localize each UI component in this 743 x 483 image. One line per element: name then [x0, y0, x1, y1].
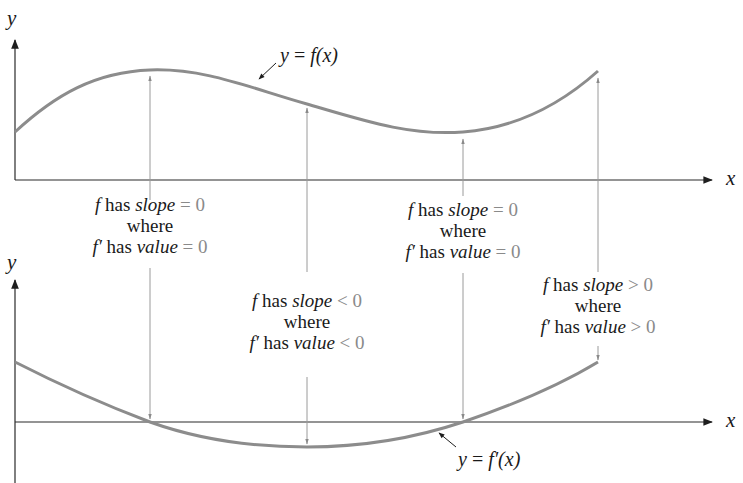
annotation-decreasing: f has slope < 0 where f′ has value < 0: [227, 290, 387, 353]
f-curve-label-eq: =: [289, 44, 310, 66]
top-x-axis-label: x: [726, 166, 735, 191]
annotation-line-value: f′ has value = 0: [383, 241, 543, 262]
annotation-where: where: [518, 295, 678, 316]
f-curve-label: y = f(x): [280, 44, 338, 67]
slope-relation: = 0: [488, 199, 518, 220]
value-relation: < 0: [335, 332, 365, 353]
value-relation: = 0: [491, 241, 521, 262]
annotation-line-slope: f has slope > 0: [518, 274, 678, 295]
f-label-pointer-icon: [259, 63, 276, 79]
annotation-line-value: f′ has value > 0: [518, 316, 678, 337]
f-prime-symbol: f′: [249, 332, 258, 353]
has-text: has: [548, 274, 583, 295]
value-relation: = 0: [178, 236, 208, 257]
bottom-x-axis-label: x: [726, 408, 735, 433]
slope-text: slope: [292, 290, 332, 311]
annotation-line-slope: f has slope = 0: [383, 199, 543, 220]
slope-text: slope: [583, 274, 623, 295]
f-prime-curve-label-lhs: y: [458, 448, 467, 470]
annotation-line-value: f′ has value < 0: [227, 332, 387, 353]
f-prime-symbol: f′: [540, 316, 549, 337]
value-text: value: [294, 332, 335, 353]
has-text: has: [259, 332, 294, 353]
slope-relation: > 0: [623, 274, 653, 295]
slope-relation: = 0: [175, 194, 205, 215]
has-text: has: [413, 199, 448, 220]
f-curve-label-rhs: f(x): [310, 44, 338, 66]
slope-relation: < 0: [332, 290, 362, 311]
annotation-local-max: f has slope = 0 where f′ has value = 0: [70, 194, 230, 257]
f-prime-label-pointer-icon: [439, 433, 456, 447]
annotation-line-value: f′ has value = 0: [70, 236, 230, 257]
annotation-line-slope: f has slope < 0: [227, 290, 387, 311]
f-prime-curve-label: y = f′(x): [458, 448, 520, 471]
f-curve-label-lhs: y: [280, 44, 289, 66]
annotation-increasing: f has slope > 0 where f′ has value > 0: [518, 274, 678, 337]
annotation-line-slope: f has slope = 0: [70, 194, 230, 215]
annotation-local-min: f has slope = 0 where f′ has value = 0: [383, 199, 543, 262]
has-text: has: [102, 236, 137, 257]
top-y-axis-label: y: [7, 6, 16, 31]
slope-text: slope: [448, 199, 488, 220]
annotation-where: where: [227, 311, 387, 332]
f-prime-symbol: f′: [92, 236, 101, 257]
bottom-y-axis-label: y: [7, 250, 16, 275]
value-text: value: [137, 236, 178, 257]
top-graph-axes: [15, 40, 712, 180]
f-prime-curve-label-eq: =: [467, 448, 488, 470]
f-prime-symbol: f′: [405, 241, 414, 262]
f-prime-curve-label-rhs: f′(x): [488, 448, 520, 470]
value-text: value: [450, 241, 491, 262]
has-text: has: [257, 290, 292, 311]
annotation-where: where: [70, 215, 230, 236]
annotation-where: where: [383, 220, 543, 241]
has-text: has: [100, 194, 135, 215]
slope-text: slope: [135, 194, 175, 215]
has-text: has: [550, 316, 585, 337]
value-text: value: [585, 316, 626, 337]
value-relation: > 0: [626, 316, 656, 337]
has-text: has: [415, 241, 450, 262]
